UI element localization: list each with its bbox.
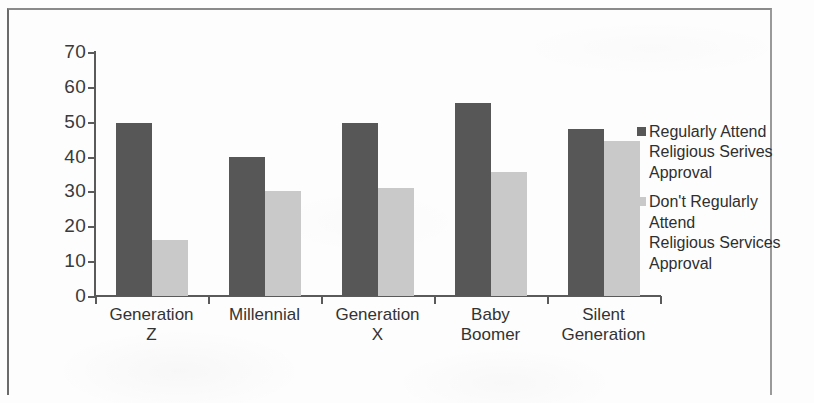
- x-axis-separator: [208, 296, 210, 304]
- x-axis-category-label: Generation Z: [109, 305, 193, 345]
- legend-label: Regularly Attend Religious Serives Appro…: [649, 122, 773, 183]
- x-axis-separator: [321, 296, 323, 304]
- bar-series-1: [265, 191, 301, 296]
- y-tick-label: 60: [64, 76, 86, 98]
- legend-item: Don't Regularly Attend Religious Service…: [637, 192, 797, 274]
- bar-group: Millennial: [208, 52, 321, 296]
- x-axis-separator: [660, 296, 662, 304]
- legend-swatch-icon: [637, 197, 646, 206]
- bar-series-0: [568, 129, 604, 296]
- bar-series-1: [491, 172, 527, 296]
- y-tick-mark: [88, 52, 95, 54]
- bar-series-1: [378, 188, 414, 296]
- bar-chart: 010203040506070 Generation ZMillennialGe…: [0, 0, 814, 403]
- y-tick-mark: [88, 122, 95, 124]
- x-axis-separator: [95, 296, 97, 304]
- y-tick-label: 0: [75, 285, 86, 307]
- y-tick-label: 40: [64, 146, 86, 168]
- bar-series-1: [604, 141, 640, 296]
- x-axis-separator: [547, 296, 549, 304]
- bar-groups: Generation ZMillennialGeneration XBaby B…: [95, 52, 660, 296]
- x-axis-category-label: Generation X: [335, 305, 419, 345]
- x-axis-category-label: Millennial: [229, 305, 300, 325]
- bar-series-0: [229, 157, 265, 296]
- y-tick-label: 20: [64, 215, 86, 237]
- bar-series-0: [455, 103, 491, 296]
- x-axis-separator: [434, 296, 436, 304]
- bar-series-1: [152, 240, 188, 296]
- bar-group: Generation Z: [95, 52, 208, 296]
- y-tick-mark: [88, 191, 95, 193]
- y-tick-mark: [88, 226, 95, 228]
- y-tick-mark: [88, 87, 95, 89]
- bar-series-0: [342, 123, 378, 296]
- x-axis-category-label: Silent Generation: [561, 305, 645, 345]
- y-tick-mark: [88, 157, 95, 159]
- y-tick-label: 30: [64, 180, 86, 202]
- legend-swatch-icon: [637, 127, 646, 136]
- y-tick-label: 70: [64, 41, 86, 63]
- y-tick-label: 50: [64, 111, 86, 133]
- y-tick-label: 10: [64, 250, 86, 272]
- legend-item: Regularly Attend Religious Serives Appro…: [637, 122, 797, 183]
- plot-area: 010203040506070 Generation ZMillennialGe…: [95, 52, 660, 296]
- y-tick-mark: [88, 296, 95, 298]
- bar-series-0: [116, 123, 152, 296]
- legend-label: Don't Regularly Attend Religious Service…: [649, 192, 797, 274]
- bar-group: Baby Boomer: [434, 52, 547, 296]
- x-axis-category-label: Baby Boomer: [461, 305, 521, 345]
- y-tick-mark: [88, 261, 95, 263]
- chart-legend: Regularly Attend Religious Serives Appro…: [637, 122, 797, 283]
- bar-group: Generation X: [321, 52, 434, 296]
